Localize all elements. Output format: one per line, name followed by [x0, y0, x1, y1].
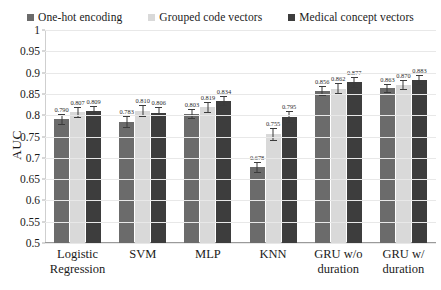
bar[interactable]	[54, 119, 69, 243]
bar[interactable]	[380, 88, 395, 243]
x-axis-category-label: MLP	[175, 245, 240, 290]
x-axis-category-line: duration	[371, 262, 436, 277]
gridline	[45, 158, 436, 159]
error-bar	[289, 111, 290, 123]
x-axis-category-label: SVM	[110, 245, 175, 290]
chart-legend: One-hot encodingGrouped code vectorsMedi…	[0, 8, 441, 26]
y-tick-label: 0.8	[26, 109, 45, 121]
bar[interactable]	[331, 89, 346, 243]
x-axis-category-line: Regression	[45, 262, 110, 277]
gridline	[45, 137, 436, 138]
gridline	[45, 179, 436, 180]
x-axis-labels: LogisticRegressionSVMMLPKNNGRU w/odurati…	[45, 245, 436, 290]
legend-swatch-icon	[288, 14, 295, 21]
x-axis-category-line: Logistic	[45, 247, 110, 262]
legend-swatch-icon	[27, 14, 34, 21]
error-bar	[338, 83, 339, 94]
gridline	[45, 115, 436, 116]
x-axis-category-label: KNN	[241, 245, 306, 290]
bar[interactable]	[151, 113, 166, 243]
bar[interactable]	[315, 91, 330, 243]
error-bar	[158, 107, 159, 118]
bar[interactable]	[135, 111, 150, 243]
x-axis-category-line: GRU w/	[371, 247, 436, 262]
bar[interactable]	[266, 134, 281, 243]
bar[interactable]	[347, 82, 362, 243]
legend-label: One-hot encoding	[38, 11, 122, 23]
x-axis-category-line: MLP	[175, 247, 240, 262]
legend-label: Grouped code vectors	[159, 11, 262, 23]
gridline	[45, 94, 436, 95]
bar-value-label: 0.806	[152, 99, 166, 106]
bar[interactable]	[70, 112, 85, 243]
gridline	[45, 243, 436, 244]
y-tick-label: 0.75	[20, 131, 45, 143]
y-tick-label: 0.6	[26, 194, 45, 206]
x-axis-category-line: GRU w/o	[306, 247, 371, 262]
error-bar	[419, 75, 420, 84]
bar[interactable]	[396, 85, 411, 243]
y-tick-label: 1	[34, 24, 45, 36]
gridline	[45, 222, 436, 223]
bar[interactable]	[412, 80, 427, 243]
x-axis-category-line: duration	[306, 262, 371, 277]
error-bar	[191, 109, 192, 118]
plot-area: 0.7900.8070.8090.7830.8100.8060.8030.819…	[45, 30, 436, 243]
legend-swatch-icon	[148, 14, 155, 21]
bar[interactable]	[86, 111, 101, 243]
bar-value-label: 0.863	[380, 76, 394, 83]
gridline	[45, 51, 436, 52]
bar-value-label: 0.803	[185, 101, 199, 108]
error-bar	[322, 86, 323, 96]
error-bar	[207, 102, 208, 113]
error-bar	[387, 84, 388, 93]
x-axis-category-label: GRU w/duration	[371, 245, 436, 290]
error-bar	[403, 80, 404, 90]
bar-value-label: 0.790	[54, 106, 68, 113]
auc-bar-chart: One-hot encodingGrouped code vectorsMedi…	[0, 0, 441, 290]
bar-value-label: 0.807	[70, 99, 84, 106]
bar-value-label: 0.809	[86, 98, 100, 105]
bar[interactable]	[119, 122, 134, 243]
bar-value-label: 0.810	[136, 97, 150, 104]
gridline	[45, 73, 436, 74]
y-tick-label: 0.7	[26, 152, 45, 164]
error-bar	[126, 116, 127, 128]
error-bar	[223, 96, 224, 106]
y-tick-label: 0.95	[20, 45, 45, 57]
y-tick-label: 0.85	[20, 88, 45, 100]
y-tick-label: 0.55	[20, 216, 45, 228]
error-bar	[273, 128, 274, 142]
x-axis-category-line: KNN	[241, 247, 306, 262]
legend-item[interactable]: Grouped code vectors	[148, 11, 262, 23]
legend-label: Medical concept vectors	[299, 11, 414, 23]
x-axis-category-line: SVM	[110, 247, 175, 262]
gridline	[45, 200, 436, 201]
gridline	[45, 30, 436, 31]
y-tick-label: 0.5	[26, 237, 45, 249]
y-tick-label: 0.65	[20, 173, 45, 185]
legend-item[interactable]: Medical concept vectors	[288, 11, 414, 23]
error-bar	[257, 162, 258, 173]
x-axis-category-label: LogisticRegression	[45, 245, 110, 290]
bar-value-label: 0.755	[266, 120, 280, 127]
x-axis-category-label: GRU w/oduration	[306, 245, 371, 290]
legend-item[interactable]: One-hot encoding	[27, 11, 122, 23]
error-bar	[354, 77, 355, 87]
y-tick-label: 0.9	[26, 67, 45, 79]
bar-value-label: 0.862	[331, 75, 345, 82]
bar-value-label: 0.795	[282, 103, 296, 110]
bar-value-label: 0.856	[315, 78, 329, 85]
